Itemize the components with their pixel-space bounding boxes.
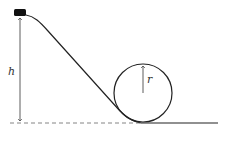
ramp-track xyxy=(26,15,141,123)
loop-track-diagram: h r xyxy=(0,0,229,141)
radius-label: r xyxy=(147,73,153,86)
height-label: h xyxy=(8,65,15,78)
block xyxy=(14,9,26,16)
